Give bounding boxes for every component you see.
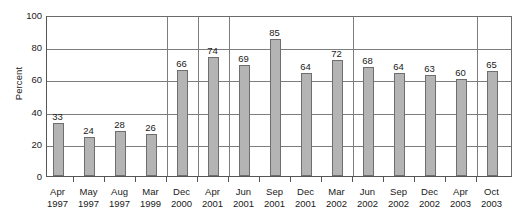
plot-area xyxy=(46,16,512,177)
bar xyxy=(456,79,467,176)
bar xyxy=(208,57,219,176)
bar xyxy=(487,71,498,176)
x-axis-label-year: 2003 xyxy=(472,198,512,210)
bar xyxy=(239,65,250,176)
bar-value-label: 68 xyxy=(353,56,383,66)
y-tick-label-40: 40 xyxy=(16,108,42,118)
vertical-separator-line xyxy=(229,17,230,176)
y-tick-label-100: 100 xyxy=(16,11,42,21)
x-axis-tick xyxy=(352,177,353,182)
bar-value-label: 24 xyxy=(74,126,104,136)
bar-value-label: 28 xyxy=(105,120,135,130)
bar xyxy=(177,70,188,176)
y-tick-label-60: 60 xyxy=(16,75,42,85)
x-axis-tick xyxy=(166,177,167,182)
bar-chart: Percent 020406080100 33Apr199724May19972… xyxy=(0,0,517,223)
bar xyxy=(53,123,64,176)
bar xyxy=(84,137,95,176)
x-axis-tick xyxy=(135,177,136,182)
bar xyxy=(146,134,157,176)
bar-value-label: 60 xyxy=(446,68,476,78)
bar-value-label: 66 xyxy=(167,59,197,69)
bar-value-label: 63 xyxy=(415,64,445,74)
bar-value-label: 64 xyxy=(291,62,321,72)
x-axis-tick xyxy=(73,177,74,182)
vertical-separator-line xyxy=(167,17,168,176)
x-axis-tick xyxy=(414,177,415,182)
y-tick-label-0: 0 xyxy=(16,172,42,182)
x-axis-tick xyxy=(290,177,291,182)
bar xyxy=(425,75,436,176)
y-tick-label-20: 20 xyxy=(16,140,42,150)
x-axis-tick xyxy=(383,177,384,182)
x-axis-label: Oct2003 xyxy=(472,186,512,210)
x-axis-tick xyxy=(228,177,229,182)
y-tick-label-80: 80 xyxy=(16,43,42,53)
bar xyxy=(115,131,126,176)
bar-value-label: 72 xyxy=(322,49,352,59)
bar xyxy=(332,60,343,176)
bar-value-label: 26 xyxy=(136,123,166,133)
bar xyxy=(394,73,405,176)
vertical-separator-line xyxy=(198,17,199,176)
bar xyxy=(301,73,312,176)
vertical-separator-line xyxy=(477,17,478,176)
bar-value-label: 85 xyxy=(260,28,290,38)
bar-value-label: 69 xyxy=(229,54,259,64)
x-axis-tick xyxy=(445,177,446,182)
vertical-separator-line xyxy=(353,17,354,176)
bar xyxy=(270,39,281,176)
x-axis-tick xyxy=(197,177,198,182)
x-axis-tick xyxy=(321,177,322,182)
x-axis-label-month: Oct xyxy=(472,186,512,198)
bar-value-label: 33 xyxy=(43,112,73,122)
x-axis-tick xyxy=(476,177,477,182)
x-axis-tick xyxy=(259,177,260,182)
bar-value-label: 65 xyxy=(477,60,507,70)
bar-value-label: 74 xyxy=(198,46,228,56)
x-axis-tick xyxy=(104,177,105,182)
bar-value-label: 64 xyxy=(384,62,414,72)
bar xyxy=(363,67,374,176)
